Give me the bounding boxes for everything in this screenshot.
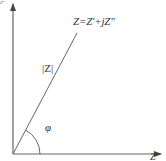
x-axis-label: Z′ — [150, 152, 158, 161]
impedance-equation-label: Z=Z′+jZ″ — [73, 16, 115, 27]
magnitude-label: |Z| — [42, 63, 53, 74]
phase-angle-arc — [26, 130, 40, 154]
y-axis-label: Z″ — [0, 0, 5, 5]
phase-angle-label: φ — [45, 122, 51, 133]
impedance-vector — [13, 33, 77, 154]
